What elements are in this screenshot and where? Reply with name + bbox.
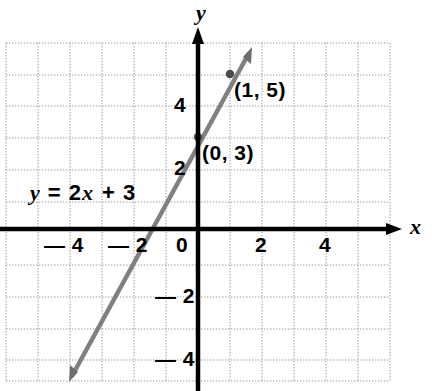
- equation-label: y= 2x+ 3: [30, 182, 136, 204]
- equation-variable-x: x: [82, 180, 94, 205]
- equation-part-1: = 2: [48, 180, 82, 205]
- point-marker-1-5: [226, 70, 234, 78]
- x-tick-label-pos4: 4: [319, 234, 331, 255]
- y-tick-label-neg4: — 4: [155, 348, 195, 369]
- plotted-line: [72, 53, 249, 376]
- point-label-0-3: (0, 3): [202, 142, 254, 163]
- equation-part-2: + 3: [102, 180, 136, 205]
- y-axis-arrowhead: [192, 27, 204, 44]
- y-tick-label-pos4: 4: [174, 94, 186, 115]
- y-tick-label-neg2: — 2: [155, 285, 195, 306]
- x-tick-label-neg4: — 4: [44, 234, 84, 255]
- coordinate-graph-figure: y x — 4 — 2 0 2 4 4 2 — 2 — 4 (1, 5) (0,…: [0, 0, 432, 391]
- x-axis-label: x: [410, 216, 421, 238]
- x-tick-label-zero: 0: [176, 234, 188, 255]
- axis-lines: [0, 27, 402, 391]
- y-tick-label-pos2: 2: [174, 157, 186, 178]
- equation-variable-y: y: [30, 180, 41, 205]
- point-label-1-5: (1, 5): [234, 79, 286, 100]
- y-axis-label: y: [196, 2, 206, 24]
- x-tick-label-neg2: — 2: [108, 234, 148, 255]
- x-tick-label-pos2: 2: [255, 234, 267, 255]
- x-axis-arrowhead: [386, 223, 402, 235]
- line-series-y-equals-2x-plus-3: [69, 47, 252, 382]
